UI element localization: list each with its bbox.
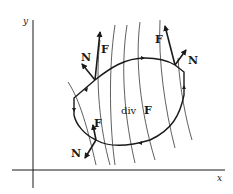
normal-label-lower-left: N <box>71 147 81 160</box>
field-lines <box>68 20 192 165</box>
normal-vector-upper-left <box>82 64 95 80</box>
orientation-arrow-icon <box>72 108 76 112</box>
region-label-prefix: div <box>121 105 137 116</box>
field-label-upper-left: F <box>101 43 109 56</box>
region-label-vector: F <box>144 104 152 117</box>
normal-label-upper-right: N <box>188 54 198 67</box>
normal-vector-upper-right <box>175 50 186 65</box>
normal-label-upper-left: N <box>81 51 91 64</box>
field-vector-upper-right <box>165 26 175 65</box>
x-axis-label: x <box>217 173 222 183</box>
orientation-arrow-icon <box>182 85 186 89</box>
y-axis-label: y <box>22 16 29 26</box>
divergence-diagram: x y div F F N F N F N <box>0 0 233 194</box>
field-vector-upper-left <box>95 32 100 80</box>
orientation-arrow-icon <box>138 141 142 145</box>
field-label-lower-left: F <box>94 117 102 130</box>
field-label-upper-right: F <box>155 33 163 46</box>
orientation-arrow-icon <box>141 56 145 60</box>
